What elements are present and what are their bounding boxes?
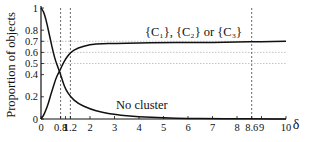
- y-tick-label: 0.7: [25, 36, 38, 47]
- y-tick-label: 0.2: [25, 91, 38, 102]
- y-tick-label: 0.5: [25, 58, 38, 69]
- x-tick-label: 6: [185, 122, 190, 133]
- x-tick-label: 10: [281, 122, 292, 133]
- line-chart: 00.811.223456788.691000.20.40.50.60.70.8…: [0, 0, 309, 142]
- y-tick-label: 0.8: [25, 25, 38, 36]
- x-tick-label: 2: [87, 122, 92, 133]
- x-tick-label: 7: [210, 122, 215, 133]
- y-tick-label: 0: [33, 114, 38, 125]
- y-tick-label: 0.4: [25, 69, 39, 80]
- series-label-no-cluster: No cluster: [116, 98, 169, 112]
- x-tick-label: 1.2: [64, 122, 77, 133]
- x-tick-label: 0: [38, 122, 43, 133]
- x-tick-label: 8.6: [245, 122, 258, 133]
- x-tick-label: 4: [136, 122, 142, 133]
- x-tick-label: 9: [259, 122, 264, 133]
- x-tick-label: 8: [234, 122, 239, 133]
- x-tick-label: 3: [112, 122, 117, 133]
- y-axis-label: Proportion of objects: [4, 12, 18, 118]
- y-tick-label: 1: [33, 3, 38, 14]
- x-tick-label: 5: [161, 122, 166, 133]
- y-tick-label: 0.6: [25, 47, 38, 58]
- series-label-cluster: {C₁}, {C₂} or {C₃}: [145, 25, 242, 39]
- x-axis-label: δ: [293, 117, 300, 132]
- axis-ticks: 00.811.223456788.691000.20.40.50.60.70.8…: [25, 3, 291, 134]
